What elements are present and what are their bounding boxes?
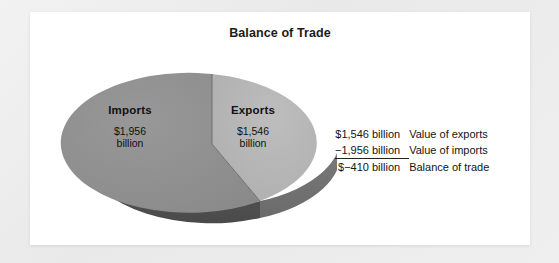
table-row: −1,956 billion Value of imports <box>335 143 489 159</box>
figure-card: Balance of Trade <box>30 12 530 245</box>
calc-amount-exports: $1,546 billion <box>335 127 409 143</box>
pie-chart-svg <box>57 58 337 230</box>
table-row: $1,546 billion Value of exports <box>335 127 489 143</box>
balance-calculation-table: $1,546 billion Value of exports −1,956 b… <box>335 127 489 176</box>
calc-amount-imports: −1,956 billion <box>335 143 409 159</box>
calc-label-imports: Value of imports <box>409 143 489 159</box>
calc-amount-balance: $−410 billion <box>335 159 409 176</box>
chart-title: Balance of Trade <box>30 26 530 40</box>
pie-chart: Imports $1,956 billion Exports $1,546 bi… <box>57 58 337 230</box>
calc-label-balance: Balance of trade <box>409 159 489 176</box>
calc-label-exports: Value of exports <box>409 127 489 143</box>
table-row-total: $−410 billion Balance of trade <box>335 159 489 176</box>
